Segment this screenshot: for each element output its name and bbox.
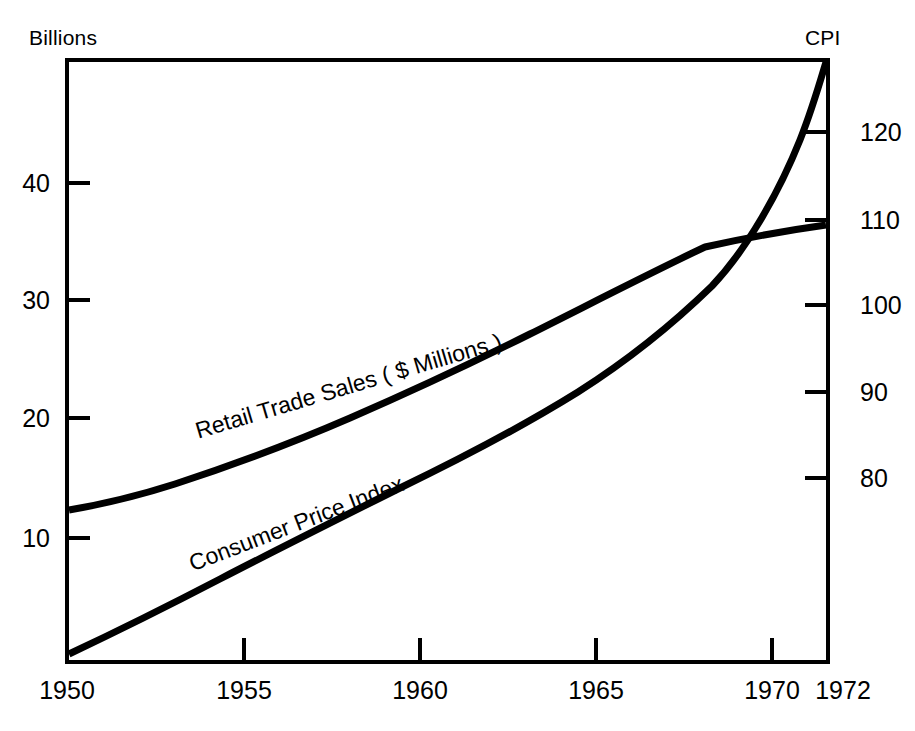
right-axis-unit-label: CPI bbox=[805, 26, 841, 50]
y-tick-label-40: 40 bbox=[0, 169, 60, 198]
y-tick-label-30: 30 bbox=[0, 286, 60, 315]
x-axis-ticks bbox=[244, 638, 772, 662]
y-tick-label-20: 20 bbox=[0, 404, 60, 433]
y-tick-label-10: 10 bbox=[0, 524, 60, 553]
chart-figure: Billions CPI bbox=[0, 0, 915, 731]
left-axis-ticks bbox=[67, 183, 90, 538]
y2-tick-label-90: 90 bbox=[860, 378, 888, 407]
y2-tick-label-120: 120 bbox=[860, 118, 902, 147]
x-tick-label-1972: 1972 bbox=[815, 676, 871, 705]
x-tick-label-1965: 1965 bbox=[568, 676, 624, 705]
x-tick-label-1960: 1960 bbox=[392, 676, 448, 705]
y2-tick-label-100: 100 bbox=[860, 291, 902, 320]
x-tick-label-1970: 1970 bbox=[744, 676, 800, 705]
x-tick-label-1950: 1950 bbox=[39, 676, 95, 705]
y2-tick-label-110: 110 bbox=[860, 206, 900, 235]
right-axis-ticks bbox=[805, 132, 828, 478]
left-axis-unit-label: Billions bbox=[29, 26, 97, 50]
x-tick-label-1955: 1955 bbox=[216, 676, 272, 705]
y2-tick-label-80: 80 bbox=[860, 464, 888, 493]
